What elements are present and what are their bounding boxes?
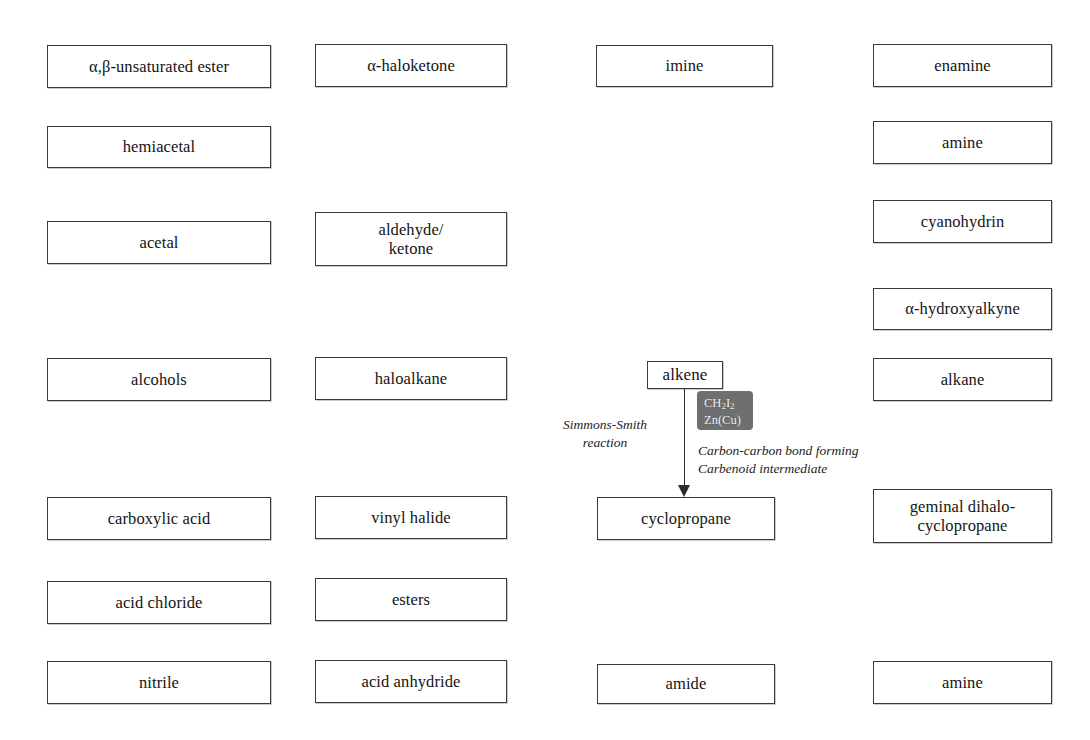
reaction-arrow-head xyxy=(678,485,690,497)
box-cyanohydrin[interactable]: cyanohydrin xyxy=(873,200,1052,243)
box-acetal[interactable]: acetal xyxy=(47,221,271,264)
box-amine-bottom[interactable]: amine xyxy=(873,661,1052,704)
box-label: cyanohydrin xyxy=(921,212,1005,231)
box-label: nitrile xyxy=(139,673,179,692)
box-label: α,β-unsaturated ester xyxy=(89,57,229,76)
box-unsaturated-ester[interactable]: α,β-unsaturated ester xyxy=(47,45,271,88)
box-label: acid chloride xyxy=(116,593,203,612)
box-hemiacetal[interactable]: hemiacetal xyxy=(47,126,271,168)
box-carboxylic-acid[interactable]: carboxylic acid xyxy=(47,497,271,540)
box-label: amine xyxy=(942,133,983,152)
reaction-arrow-shaft xyxy=(684,389,686,487)
box-esters[interactable]: esters xyxy=(315,578,507,621)
box-label: imine xyxy=(665,56,703,75)
box-haloalkane[interactable]: haloalkane xyxy=(315,357,507,400)
box-label: haloalkane xyxy=(375,369,447,388)
box-label: alcohols xyxy=(131,370,187,389)
box-label: hemiacetal xyxy=(123,137,195,156)
box-label: α-haloketone xyxy=(367,56,455,75)
box-cyclopropane[interactable]: cyclopropane xyxy=(597,497,775,540)
box-label: alkane xyxy=(941,370,985,389)
box-aldehyde-ketone[interactable]: aldehyde/ ketone xyxy=(315,212,507,266)
box-geminal-dihalocyclopropane[interactable]: geminal dihalo- cyclopropane xyxy=(873,489,1052,543)
annotation-reaction-note: Carbon-carbon bond forming Carbenoid int… xyxy=(698,442,928,478)
box-label: esters xyxy=(392,590,430,609)
reagent-line-2: Zn(Cu) xyxy=(704,412,747,429)
box-amide[interactable]: amide xyxy=(597,664,775,704)
box-nitrile[interactable]: nitrile xyxy=(47,661,271,704)
box-label: α-hydroxyalkyne xyxy=(905,299,1020,318)
box-label: carboxylic acid xyxy=(108,509,211,528)
box-imine[interactable]: imine xyxy=(596,45,773,87)
reagent-chip-simmons-smith: CH2I2 Zn(Cu) xyxy=(697,391,753,430)
box-amine-top[interactable]: amine xyxy=(873,121,1052,164)
box-acid-chloride[interactable]: acid chloride xyxy=(47,581,271,624)
box-label: amide xyxy=(666,674,707,693)
box-acid-anhydride[interactable]: acid anhydride xyxy=(315,660,507,703)
box-alkane[interactable]: alkane xyxy=(873,358,1052,401)
box-enamine[interactable]: enamine xyxy=(873,44,1052,87)
annotation-reaction-name: Simmons-Smith reaction xyxy=(531,416,679,452)
box-label: cyclopropane xyxy=(641,509,731,528)
box-label: amine xyxy=(942,673,983,692)
box-haloketone[interactable]: α-haloketone xyxy=(315,44,507,87)
box-hydroxyalkyne[interactable]: α-hydroxyalkyne xyxy=(873,288,1052,330)
box-alkene[interactable]: alkene xyxy=(647,361,723,389)
box-label: geminal dihalo- cyclopropane xyxy=(910,497,1016,536)
box-label: alkene xyxy=(663,365,708,385)
reagent-line-1: CH2I2 xyxy=(704,395,747,412)
box-label: vinyl halide xyxy=(371,508,451,527)
box-alcohols[interactable]: alcohols xyxy=(47,358,271,401)
box-label: acetal xyxy=(139,233,178,252)
box-label: enamine xyxy=(934,56,991,75)
box-vinyl-halide[interactable]: vinyl halide xyxy=(315,496,507,539)
reaction-map-canvas: α,β-unsaturated ester α-haloketone imine… xyxy=(0,0,1090,740)
box-label: aldehyde/ ketone xyxy=(378,220,443,259)
box-label: acid anhydride xyxy=(362,672,461,691)
